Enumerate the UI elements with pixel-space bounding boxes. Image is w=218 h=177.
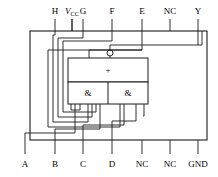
net-and-left-leg	[71, 104, 80, 110]
schematic-figure: + & & VCC H G F E NC Y A B C D NC NC GND	[0, 0, 218, 177]
pin-label-gnd: GND	[188, 159, 208, 169]
pin-label-y: Y	[195, 6, 202, 16]
pin-label-vcc-sub: CC	[70, 10, 79, 17]
net-c	[83, 104, 124, 140]
pin-label-g: G	[80, 6, 87, 16]
pin-label-e: E	[139, 6, 145, 16]
and-gate-left-symbol: &	[84, 89, 91, 98]
pin-label-nc-top: NC	[164, 6, 177, 16]
top-pin-leads	[55, 19, 198, 31]
net-y-output	[110, 31, 202, 50]
pin-label-vcc-main: V	[65, 6, 71, 16]
invert-bubble-icon	[107, 50, 113, 56]
pin-label-nc-b1: NC	[136, 159, 149, 169]
schematic-canvas	[0, 0, 218, 177]
bottom-pin-leads	[25, 140, 198, 154]
pin-label-f: F	[109, 6, 114, 16]
pin-label-nc-b2: NC	[164, 159, 177, 169]
net-e	[89, 31, 142, 58]
or-gate-symbol: +	[105, 66, 110, 75]
pin-label-a: A	[22, 159, 29, 169]
pin-label-b: B	[52, 159, 58, 169]
net-and-right-leg	[143, 104, 144, 116]
pin-label-d: D	[109, 159, 116, 169]
pin-label-h: H	[52, 6, 59, 16]
pin-label-c: C	[80, 159, 86, 169]
pin-label-vcc: VCC	[65, 6, 79, 17]
and-gate-right-symbol: &	[124, 89, 131, 98]
